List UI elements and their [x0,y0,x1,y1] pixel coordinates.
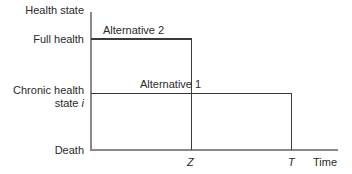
alt1-label: Alternative 1 [140,78,201,91]
y-axis-line [90,12,92,151]
alt2-horizontal-line [91,38,192,40]
alt2-label: Alternative 2 [103,24,164,37]
x-axis-line [90,149,338,151]
level-chronic-line1: Chronic health [0,84,84,97]
level-full-health: Full health [0,33,84,46]
x-axis-title: Time [313,156,337,169]
level-death: Death [0,144,84,157]
tick-t: T [288,156,295,169]
level-chronic-text: state [55,97,82,109]
tick-z: Z [187,156,194,169]
alt1-vertical-line [291,93,293,150]
level-chronic-line2: state i [0,97,84,110]
alt1-horizontal-line [91,93,292,95]
y-axis-title: Health state [0,4,84,17]
alt2-vertical-line [191,38,193,150]
level-chronic-var: i [82,97,84,109]
